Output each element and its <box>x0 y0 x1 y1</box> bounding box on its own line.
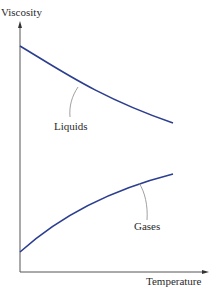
y-axis-arrow-icon <box>18 21 22 28</box>
gases-label: Gases <box>134 221 160 232</box>
liquids-curve <box>20 46 173 123</box>
liquids-leader-line <box>70 87 78 117</box>
viscosity-diagram <box>0 0 216 288</box>
liquids-label: Liquids <box>54 121 88 132</box>
gases-curve <box>20 174 173 252</box>
gases-leader-line <box>139 183 147 220</box>
x-axis-arrow-icon <box>202 270 209 274</box>
y-axis-label: Viscosity <box>1 7 42 18</box>
x-axis-label: Temperature <box>146 276 201 287</box>
